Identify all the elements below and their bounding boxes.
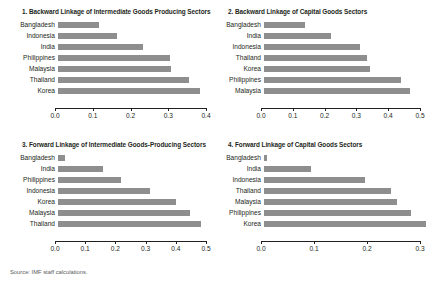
bar [58,188,150,194]
axis-tick [93,108,94,111]
bar [58,210,190,216]
axis-tick [168,108,169,111]
panel-2-title: 2. Backward Linkage of Capital Goods Sec… [214,8,428,16]
panel-4-plot: BangladeshIndiaIndonesiaThailandMalaysia… [214,152,428,256]
bar-row: Malaysia [214,196,428,207]
bar-category-label: Korea [214,220,264,227]
bar [264,77,401,83]
axis-tick-label: 0.5 [201,245,210,253]
bar-category-label: Philippines [214,209,264,216]
bar-category-label: Malaysia [0,65,58,72]
bar-row: Thailand [0,74,214,85]
bar-category-label: India [214,165,264,172]
bar-row: Thailand [214,52,428,63]
bar-category-label: Bangladesh [214,21,264,28]
panel-grid: 1. Backward Linkage of Intermediate Good… [0,8,428,260]
axis-tick [420,108,421,111]
bar [264,88,410,94]
bar-track [264,218,428,229]
bar [264,155,267,161]
bar-row: Malaysia [214,85,428,96]
bar-category-label: Indonesia [0,32,58,39]
bar-track [264,52,428,63]
bar-track [58,185,214,196]
bar-category-label: Korea [0,198,58,205]
bar-track [58,218,214,229]
bar [264,199,397,205]
bar-track [264,19,428,30]
axis-tick [261,241,262,244]
axis-tick-label: 0.2 [320,112,329,120]
panel-2-axis-line [261,108,420,109]
panel-1-title: 1. Backward Linkage of Intermediate Good… [0,8,214,16]
bar-track [58,63,214,74]
bar-track [264,85,428,96]
bar-track [264,185,428,196]
bar [264,177,365,183]
panel-1-plot: BangladeshIndonesiaIndiaPhilippinesMalay… [0,19,214,123]
panel-4-x-axis: 0.00.10.20.3 [261,241,420,242]
bar-row: Thailand [214,185,428,196]
bar [58,66,171,72]
figure-panel-chart: 1. Backward Linkage of Intermediate Good… [0,0,428,282]
bar [58,166,103,172]
axis-tick-label: 0.3 [141,245,150,253]
bar-row: Bangladesh [0,152,214,163]
bar-row: Philippines [214,207,428,218]
bar-track [58,85,214,96]
bar [58,221,201,227]
panel-1-x-axis: 0.00.10.20.30.4 [55,108,206,109]
bar-category-label: India [0,165,58,172]
axis-tick [146,241,147,244]
panel-1: 1. Backward Linkage of Intermediate Good… [0,8,214,134]
axis-tick-label: 0.0 [50,112,59,120]
bar-row: Malaysia [0,63,214,74]
bar-row: Bangladesh [0,19,214,30]
bar [58,177,121,183]
bar-row: Bangladesh [214,19,428,30]
panel-2: 2. Backward Linkage of Capital Goods Sec… [214,8,428,134]
axis-tick-label: 0.2 [362,245,371,253]
bar-row: Korea [214,218,428,229]
panel-3-plot: BangladeshIndiaPhilippinesIndonesiaKorea… [0,152,214,256]
bar [264,33,331,39]
panel-3-axis-line [55,241,206,242]
axis-tick [55,241,56,244]
bar-row: Malaysia [0,207,214,218]
axis-tick [206,108,207,111]
bar-row: Indonesia [214,41,428,52]
axis-tick-label: 0.3 [352,112,361,120]
axis-tick [325,108,326,111]
bar-category-label: Bangladesh [0,21,58,28]
bar-category-label: India [0,43,58,50]
bar-category-label: Philippines [214,76,264,83]
axis-tick-label: 0.4 [201,112,210,120]
bar-row: India [214,163,428,174]
bar-track [264,152,428,163]
axis-tick [115,241,116,244]
bar-category-label: Thailand [214,54,264,61]
bar-row: Indonesia [214,174,428,185]
bar-track [264,30,428,41]
axis-tick [367,241,368,244]
bar-category-label: Korea [0,87,58,94]
axis-tick-label: 0.2 [126,112,135,120]
bar-row: Korea [0,85,214,96]
axis-tick [293,108,294,111]
axis-tick [206,241,207,244]
axis-tick-label: 0.1 [288,112,297,120]
bar-category-label: Thailand [0,76,58,83]
bar-row: Philippines [0,52,214,63]
panel-4-title: 4. Forward Linkage of Capital Goods Sect… [214,141,428,149]
panel-2-plot: BangladeshIndiaIndonesiaThailandKoreaPhi… [214,19,428,123]
bar-category-label: Bangladesh [0,154,58,161]
bar [264,166,311,172]
bar-track [58,74,214,85]
bar-track [58,174,214,185]
bar-category-label: Philippines [0,176,58,183]
panel-3: 3. Forward Linkage of Intermediate Goods… [0,141,214,267]
axis-tick [420,241,421,244]
bar-category-label: Korea [214,65,264,72]
bar-category-label: Malaysia [214,198,264,205]
axis-tick [314,241,315,244]
